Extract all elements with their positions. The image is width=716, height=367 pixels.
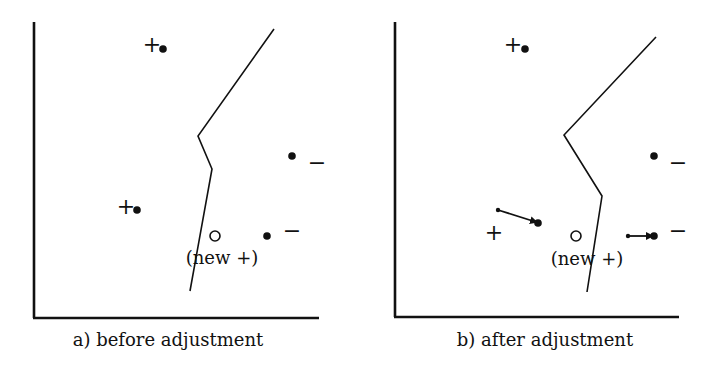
- plus-label: +: [117, 194, 135, 219]
- minus-label: −: [283, 218, 301, 243]
- panel-caption: b) after adjustment: [457, 329, 634, 350]
- minus-label: −: [308, 150, 326, 175]
- prototype-move-arrow: [498, 210, 536, 222]
- plus-label: +: [485, 220, 503, 245]
- new-point-circle: [210, 231, 220, 241]
- new-point-label: (new +): [186, 247, 259, 268]
- negative-prototype-dot: [288, 152, 296, 160]
- minus-label: −: [669, 150, 687, 175]
- minus-label: −: [669, 218, 687, 243]
- figure: ++−−(new +)a) before adjustment ++−−(new…: [0, 0, 716, 367]
- positive-prototype-dot: [534, 219, 542, 227]
- panel-caption: a) before adjustment: [73, 329, 264, 350]
- negative-prototype-dot: [650, 152, 658, 160]
- panel-after-adjustment: ++−−(new +)b) after adjustment: [394, 22, 687, 350]
- positive-prototype-dot: [521, 45, 529, 53]
- plus-label: +: [504, 32, 522, 57]
- negative-prototype-dot: [650, 232, 658, 240]
- negative-prototype-dot: [263, 232, 271, 240]
- panel-before-adjustment: ++−−(new +)a) before adjustment: [33, 22, 326, 350]
- plus-label: +: [143, 32, 161, 57]
- new-point-circle: [571, 231, 581, 241]
- new-point-label: (new +): [551, 248, 624, 269]
